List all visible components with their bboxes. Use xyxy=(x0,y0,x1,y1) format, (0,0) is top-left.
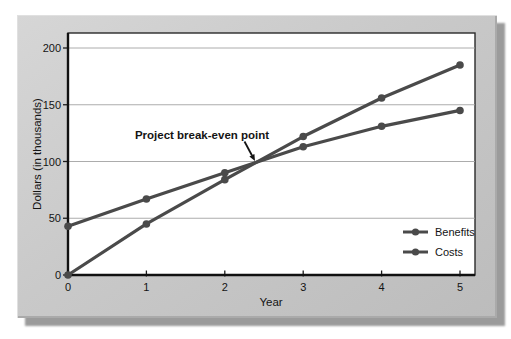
data-point-benefits-4 xyxy=(378,94,386,102)
y-tick-label-100: 100 xyxy=(43,156,61,168)
data-point-benefits-0 xyxy=(64,271,72,279)
data-point-benefits-1 xyxy=(143,220,151,228)
x-tick-label-4: 4 xyxy=(379,281,385,293)
data-point-costs-3 xyxy=(299,143,307,151)
figure-panel: 050100150200 012345 BenefitsCosts Dollar… xyxy=(17,15,497,318)
legend-marker-benefits xyxy=(412,228,419,235)
data-point-benefits-5 xyxy=(456,61,464,69)
data-point-benefits-3 xyxy=(299,133,307,141)
x-tick-label-0: 0 xyxy=(65,281,71,293)
data-point-costs-4 xyxy=(378,123,386,131)
x-tick-label-3: 3 xyxy=(300,281,306,293)
y-axis-title: Dollars (in thousands) xyxy=(31,98,43,210)
legend-marker-costs xyxy=(412,248,419,255)
y-axis-tick-labels: 050100150200 xyxy=(43,42,61,281)
y-tick-label-150: 150 xyxy=(43,99,61,111)
annotation-text: Project break-even point xyxy=(135,129,269,141)
break-even-chart: 050100150200 012345 BenefitsCosts Dollar… xyxy=(17,15,497,318)
x-tick-label-2: 2 xyxy=(222,281,228,293)
x-tick-label-5: 5 xyxy=(457,281,463,293)
data-point-costs-1 xyxy=(143,195,151,203)
x-tick-label-1: 1 xyxy=(143,281,149,293)
y-tick-label-200: 200 xyxy=(43,42,61,54)
data-point-benefits-2 xyxy=(221,176,229,184)
x-axis-title: Year xyxy=(259,296,282,308)
legend-label-benefits: Benefits xyxy=(435,226,475,238)
y-tick-label-0: 0 xyxy=(55,269,61,281)
data-point-costs-5 xyxy=(456,107,464,115)
data-point-costs-0 xyxy=(64,222,72,230)
data-point-costs-2 xyxy=(221,169,229,177)
y-tick-label-50: 50 xyxy=(49,212,61,224)
legend-label-costs: Costs xyxy=(435,246,464,258)
x-axis-tick-labels: 012345 xyxy=(65,281,463,293)
